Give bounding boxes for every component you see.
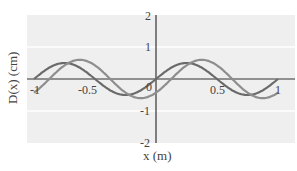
y-tick: 2 — [145, 9, 151, 23]
x-tick: -1 — [30, 83, 40, 97]
chart: 2 1 -1 -2 -1 -0.5 0 0.5 1 x (m) D(x) (cm… — [0, 0, 297, 171]
x-tick: -0.5 — [78, 83, 97, 97]
y-tick: 1 — [145, 40, 151, 54]
y-tick: -1 — [140, 104, 150, 118]
x-tick: 0.5 — [210, 83, 225, 97]
y-axis-label: D(x) (cm) — [5, 52, 20, 104]
x-tick: 1 — [275, 83, 281, 97]
x-tick: 0 — [146, 80, 152, 94]
x-axis-label: x (m) — [143, 148, 172, 163]
